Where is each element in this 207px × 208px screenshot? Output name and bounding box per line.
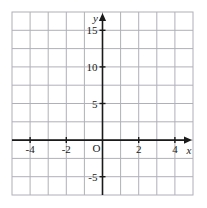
y-tick-label: 15 — [87, 24, 99, 36]
x-axis-label: x — [186, 144, 192, 156]
x-tick-label: -2 — [62, 143, 71, 155]
y-tick-label: -5 — [88, 171, 98, 183]
y-axis-label: y — [92, 12, 98, 24]
coordinate-plane: -4-22415105-5Oxy — [0, 0, 207, 208]
parabola-family-figure: -4-22415105-5Oxy — [0, 0, 207, 208]
origin-label: O — [93, 142, 101, 154]
y-tick-label: 10 — [87, 61, 99, 73]
x-tick-label: -4 — [26, 143, 36, 155]
x-tick-label: 2 — [136, 143, 142, 155]
x-tick-label: 4 — [172, 143, 178, 155]
y-tick-label: 5 — [92, 98, 98, 110]
